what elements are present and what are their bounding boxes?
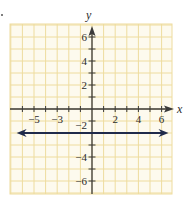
coordinate-plane: −5−3246642−2−4−6 x y xyxy=(0,0,189,203)
x-tick-label: 2 xyxy=(112,113,118,125)
x-tick-label: 4 xyxy=(136,113,142,125)
y-tick-label: −6 xyxy=(75,175,87,187)
y-tick-label: −4 xyxy=(75,151,87,163)
y-axis-label: y xyxy=(85,8,92,22)
y-tick-label: 6 xyxy=(82,31,88,43)
x-tick-label: −5 xyxy=(28,113,40,125)
y-tick-label: 2 xyxy=(82,79,88,91)
y-tick-label: 4 xyxy=(82,55,88,67)
y-tick-label: −2 xyxy=(75,119,87,131)
x-axis-label: x xyxy=(176,102,183,116)
x-tick-label: 6 xyxy=(159,113,165,125)
x-tick-label: −3 xyxy=(51,113,63,125)
